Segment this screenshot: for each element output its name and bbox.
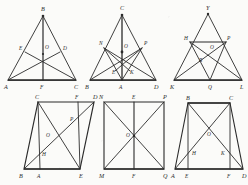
vertex-dot-o [133, 135, 135, 137]
figure-6-trapezoid-with-diagonals: B C A D E F O H K [170, 93, 248, 183]
segment-ca [38, 102, 40, 169]
label-a: A [36, 173, 41, 179]
label-o: O [45, 44, 49, 50]
label-c: C [229, 94, 234, 101]
label-k: K [220, 150, 225, 156]
label-b: B [186, 94, 190, 101]
label-e: E [184, 173, 189, 179]
label-y: Y [206, 4, 210, 11]
label-h: H [183, 35, 189, 41]
label-o: O [207, 131, 211, 137]
label-l: L [239, 83, 244, 90]
label-h: H [191, 150, 197, 156]
label-e: E [78, 172, 83, 179]
label-e: E [131, 94, 136, 100]
figure-3-triangle-with-inscribed-rectangle: K Y L H P O R Q [166, 2, 248, 92]
label-o: O [124, 43, 128, 49]
label-o: O [210, 44, 214, 50]
label-e: E [18, 45, 23, 51]
label-f: F [226, 173, 231, 179]
triangle-outline [174, 14, 242, 80]
vertex-dot-b [42, 15, 45, 18]
diagonal-bd [188, 103, 243, 169]
diagonal-bd [24, 102, 94, 169]
label-f: F [131, 173, 136, 179]
label-b: B [41, 5, 45, 12]
label-d: D [241, 172, 247, 179]
vertex-dot-o [121, 51, 124, 54]
label-k: K [129, 69, 134, 75]
vertex-dot-o [42, 53, 44, 55]
segment-pe [115, 48, 142, 71]
figure-5-rectangle-with-diagonals: N P M Q E F O [96, 93, 176, 183]
label-b: B [19, 172, 23, 179]
label-q: Q [208, 84, 212, 90]
figure-4-parallelogram-with-diagonals: B C D E F A O P H [18, 93, 102, 183]
triangle-outline [90, 15, 156, 80]
label-p: P [226, 35, 231, 41]
label-k: K [169, 83, 175, 90]
label-a: A [3, 83, 8, 90]
segment-fe [78, 102, 80, 169]
label-n: N [98, 40, 103, 46]
label-e: E [111, 69, 116, 75]
segment-nk [104, 48, 130, 71]
diagonal-ac [175, 103, 230, 169]
segment-hl [190, 42, 242, 80]
label-b: B [85, 83, 89, 90]
label-c: C [35, 93, 40, 100]
label-f: F [39, 84, 44, 90]
segment-pa [122, 48, 142, 80]
label-r: R [198, 57, 203, 63]
figure-1-isosceles-triangle-medians: A B C E D O F [0, 2, 85, 92]
label-p: P [143, 40, 148, 46]
label-o: O [46, 132, 50, 138]
label-d: D [153, 83, 159, 90]
label-q: Q [163, 172, 168, 179]
label-a: A [170, 172, 175, 179]
label-a: A [118, 84, 123, 90]
figure-plate: A B C E D O F B C D [0, 0, 248, 185]
label-n: N [98, 93, 104, 100]
label-p: P [162, 93, 167, 100]
figure-2-triangle-with-cevians: B C D N P O E K A [82, 2, 168, 92]
segment-na [104, 48, 122, 80]
label-c: C [120, 4, 125, 11]
cevian-dn [104, 48, 156, 80]
label-d: D [62, 45, 67, 51]
label-p: P [69, 116, 74, 122]
label-o: O [126, 132, 130, 138]
label-m: M [98, 172, 105, 179]
label-c: C [74, 83, 79, 90]
vertex-dot-y [207, 13, 209, 15]
vertex-dot-c [121, 14, 124, 17]
label-f: F [74, 94, 79, 100]
label-h: H [41, 151, 47, 157]
